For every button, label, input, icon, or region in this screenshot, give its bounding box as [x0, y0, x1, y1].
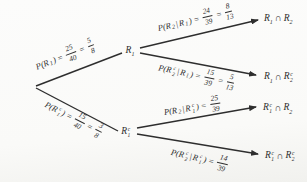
event-symbol: R: [264, 71, 270, 81]
event-symbol: R: [126, 45, 132, 55]
equals-sign: =: [194, 71, 201, 81]
event-subscript: 1: [269, 109, 272, 115]
event-symbol: R: [284, 13, 290, 23]
prob-expression: P(R: [35, 59, 50, 72]
intersection-symbol: ∩: [275, 102, 282, 112]
equals-sign: =: [56, 53, 64, 63]
event-symbol: R: [265, 150, 271, 160]
equals-sign: =: [193, 15, 201, 25]
fraction: 1539: [202, 68, 216, 89]
node-label-r1-and-r2: R1∩R2: [264, 14, 293, 24]
equals-sign: =: [78, 45, 86, 55]
event-subscript: 1: [192, 108, 196, 114]
intersection-symbol: ∩: [277, 150, 284, 160]
node-label-r1c: Rc1: [121, 127, 131, 138]
sup-sub-stack: c2: [290, 72, 293, 83]
event-subscript: 1: [270, 77, 273, 83]
event-subscript: 2: [184, 156, 188, 162]
intersection-symbol: ∩: [275, 71, 282, 81]
node-label-r1: R1: [126, 46, 135, 56]
event-subscript: 1: [198, 159, 202, 165]
event-subscript: 1: [131, 51, 134, 57]
event-subscript: 2: [172, 71, 176, 77]
equals-sign: =: [207, 157, 215, 167]
prob-expression: ): [189, 70, 194, 79]
fraction: 1439: [215, 153, 230, 174]
denominator: 40: [72, 120, 83, 132]
denominator: 39: [212, 104, 221, 114]
event-subscript: 2: [290, 19, 293, 25]
node-label-r1-and-r2c: R1∩Rc2: [264, 72, 293, 83]
sup-sub-stack: c2: [292, 151, 295, 162]
equals-sign: =: [65, 111, 74, 121]
probability-tree-diagram: R1 Rc1 R1∩R2 R1∩Rc2 Rc1∩R2 Rc1∩Rc2 P(R1)…: [0, 0, 307, 182]
denominator: 13: [225, 12, 234, 23]
event-subscript: 1: [271, 157, 274, 163]
prob-expression: P(R: [157, 22, 172, 33]
sup-sub-stack: c1: [271, 151, 274, 162]
sup-sub-stack: c1: [269, 103, 272, 114]
event-subscript: 2: [289, 108, 292, 114]
node-label-r1c-and-r2: Rc1∩R2: [263, 103, 292, 114]
event-subscript: 1: [270, 19, 273, 25]
event-subscript: 2: [290, 78, 293, 84]
denominator: 13: [225, 82, 234, 92]
event-subscript: 2: [292, 157, 295, 163]
event-symbol: R: [263, 102, 269, 112]
sup-sub-stack: c1: [128, 127, 131, 138]
fraction: 2439: [200, 6, 215, 27]
event-symbol: R: [285, 150, 291, 160]
event-symbol: R: [264, 13, 270, 23]
node-label-r1c-and-r2c: Rc1∩Rc2: [265, 151, 295, 162]
denominator: 39: [204, 78, 213, 88]
event-symbol: R: [284, 71, 290, 81]
denominator: 40: [68, 53, 78, 64]
denominator: 8: [93, 131, 100, 141]
event-subscript: 1: [128, 133, 131, 139]
prob-expression: ): [196, 103, 200, 112]
equals-sign: =: [217, 76, 224, 86]
intersection-symbol: ∩: [275, 13, 282, 23]
event-symbol: R: [121, 126, 127, 136]
prob-expression: P(R: [163, 106, 177, 116]
equals-sign: =: [215, 10, 223, 20]
equals-sign: =: [200, 102, 207, 111]
prob-expression: P(R: [158, 64, 173, 75]
equals-sign: =: [85, 122, 94, 132]
prob-expression: P(R: [170, 148, 185, 159]
prob-expression: R: [185, 104, 191, 113]
denominator: 8: [89, 46, 96, 56]
denominator: 39: [204, 16, 213, 27]
tree-branches: [0, 0, 307, 182]
fraction: 2539: [209, 94, 222, 115]
denominator: 39: [217, 163, 226, 174]
